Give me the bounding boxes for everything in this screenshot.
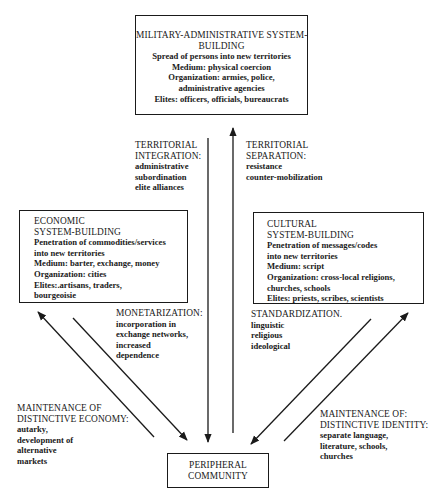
label-territorial-integration: TERRITORIAL INTEGRATION: administrative … [135, 140, 201, 193]
edge-line: linguistic [251, 320, 342, 331]
edge-line: resistance [246, 161, 323, 172]
node-title: ECONOMIC [34, 216, 166, 227]
node-line: Elites:.artisans, traders, [34, 280, 166, 291]
node-title: BUILDING [136, 41, 307, 52]
node-line: Medium: physical coercion [136, 62, 307, 73]
node-title: SYSTEM-BUILDING [34, 227, 166, 238]
cultural-system-box: CULTURAL SYSTEM-BUILDING Penetration of … [253, 212, 424, 304]
edge-line: religious [251, 330, 342, 341]
label-maintenance-economy: MAINTENANCE OF DISTINCTIVE ECONOMY: auta… [17, 403, 129, 467]
node-title: PERIPHERAL [168, 460, 268, 471]
node-line: Penetration of messages/codes [267, 240, 395, 251]
node-line: into new territories [267, 251, 395, 262]
edge-line: alternative [17, 445, 129, 456]
edge-title: INTEGRATION: [135, 151, 201, 162]
edge-title: MAINTENANCE OF: [320, 409, 428, 420]
edge-line: ideological [251, 341, 342, 352]
node-line: Organization: cross-local religions, [267, 272, 395, 283]
node-line: Elites: officers, officials, bureaucrats [136, 94, 307, 105]
edge-title: TERRITORIAL [135, 140, 201, 151]
node-line: Medium: barter, exchange, money [34, 258, 166, 269]
node-line: Organization: armies, police, [136, 72, 307, 83]
edge-title: DISTINCTIVE IDENTITY: [320, 420, 428, 431]
label-maintenance-identity: MAINTENANCE OF: DISTINCTIVE IDENTITY: se… [320, 409, 428, 462]
node-title: SYSTEM-BUILDING [267, 230, 395, 241]
label-territorial-separation: TERRITORIAL SEPARATION: resistance count… [246, 140, 323, 182]
edge-line: increased [116, 340, 203, 351]
military-administrative-box: MILITARY-ADMINISTRATIVE SYSTEM- BUILDING… [135, 15, 308, 115]
edge-line: administrative [135, 161, 201, 172]
label-monetarization: MONETARIZATION: incorporation in exchang… [116, 308, 203, 361]
node-line: administrative agencies [136, 83, 307, 94]
node-title: MILITARY-ADMINISTRATIVE SYSTEM- [136, 30, 307, 41]
edge-line: development of [17, 435, 129, 446]
node-line: Penetration of commodities/services [34, 237, 166, 248]
edge-title: MAINTENANCE OF [17, 403, 129, 414]
edge-title: TERRITORIAL [246, 140, 323, 151]
edge-line: incorporation in [116, 319, 203, 330]
edge-line: exchange networks, [116, 329, 203, 340]
edge-line: counter-mobilization [246, 172, 323, 183]
edge-line: dependence [116, 350, 203, 361]
edge-line: markets [17, 456, 129, 467]
node-title: COMMUNITY [168, 471, 268, 482]
node-line: bourgeoisie [34, 290, 166, 301]
edge-line: autarky, [17, 424, 129, 435]
peripheral-community-box: PERIPHERAL COMMUNITY [167, 453, 269, 488]
edge-line: subordination [135, 172, 201, 183]
node-title: CULTURAL [267, 219, 395, 230]
edge-title: DISTINCTIVE ECONOMY: [17, 414, 129, 425]
edge-line: churches [320, 451, 428, 462]
node-line: Elites: priests, scribes, scientists [267, 293, 395, 304]
node-line: Organization: cities [34, 269, 166, 280]
edge-title: SEPARATION: [246, 151, 323, 162]
node-line: Medium: script [267, 261, 395, 272]
edge-title: MONETARIZATION: [116, 308, 203, 319]
edge-line: separate language, [320, 430, 428, 441]
edge-title: STANDARDIZATION. [251, 309, 342, 320]
node-line: Spread of persons into new territories [136, 51, 307, 62]
node-line: into new territories [34, 248, 166, 259]
edge-line: elite alliances [135, 182, 201, 193]
edge-line: literature, schools, [320, 441, 428, 452]
label-standardization: STANDARDIZATION. linguistic religious id… [251, 309, 342, 351]
node-line: churches, schools [267, 283, 395, 294]
economic-system-box: ECONOMIC SYSTEM-BUILDING Penetration of … [19, 210, 188, 303]
